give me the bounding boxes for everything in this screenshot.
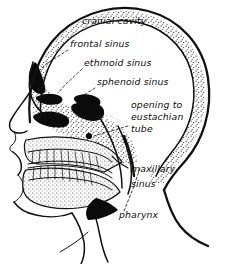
label-sphenoid-sinus: sphenoid sinus xyxy=(97,76,169,87)
head-sagittal-diagram: cranial cavity frontal sinus ethmoid sin… xyxy=(0,0,226,264)
anatomical-figure: cranial cavity frontal sinus ethmoid sin… xyxy=(0,0,226,264)
label-frontal-sinus: frontal sinus xyxy=(70,38,130,49)
label-text-sphenoid-sinus: sphenoid sinus xyxy=(97,76,169,87)
label-cranial-cavity: cranial cavity xyxy=(82,15,147,26)
label-text-maxillary-line1: maxillary xyxy=(131,163,176,174)
label-text-eustachian-line2: eustachian xyxy=(131,111,183,122)
label-pharynx: pharynx xyxy=(118,209,159,220)
label-ethmoid-sinus: ethmoid sinus xyxy=(84,57,151,68)
label-text-ethmoid-sinus: ethmoid sinus xyxy=(84,57,151,68)
label-text-eustachian-line1: opening to xyxy=(131,99,183,110)
label-text-cranial-cavity: cranial cavity xyxy=(82,15,147,26)
eustachian-opening-dot xyxy=(86,133,92,139)
label-text-eustachian-line3: tube xyxy=(131,123,153,134)
label-text-frontal-sinus: frontal sinus xyxy=(70,38,130,49)
label-text-maxillary-line2: sinus xyxy=(131,178,156,189)
label-text-pharynx: pharynx xyxy=(118,209,159,220)
